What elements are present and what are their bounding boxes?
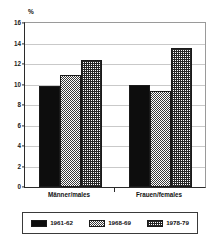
x-axis-label-2: Frauen/females bbox=[114, 192, 204, 198]
bar-frauen-1968-69 bbox=[150, 91, 171, 187]
y-tick-label: 14 bbox=[14, 40, 21, 46]
y-tick-label: 16 bbox=[14, 20, 21, 26]
bar-männer-1968-69 bbox=[60, 75, 81, 187]
y-tick-label: 4 bbox=[17, 143, 21, 149]
chart-legend: 1961-62 1968-69 1978-79 bbox=[22, 212, 198, 234]
legend-label-series1: 1961-62 bbox=[50, 220, 73, 226]
x-axis-label-1: Männer/males bbox=[24, 192, 114, 198]
plot-area: 0246810121416 bbox=[24, 22, 206, 188]
y-tick-mark bbox=[22, 84, 25, 85]
bar-frauen-1978-79 bbox=[171, 48, 192, 187]
y-tick-mark bbox=[22, 63, 25, 64]
y-tick-label: 6 bbox=[17, 122, 21, 128]
y-tick-label: 12 bbox=[14, 61, 21, 67]
legend-label-series2: 1968-69 bbox=[108, 220, 131, 226]
y-tick-label: 10 bbox=[14, 81, 21, 87]
bar-frauen-1961-62 bbox=[129, 85, 150, 188]
bar-männer-1978-79 bbox=[81, 60, 102, 187]
legend-item: 1978-79 bbox=[147, 220, 189, 227]
y-tick-mark bbox=[22, 186, 25, 187]
y-tick-mark bbox=[22, 43, 25, 44]
y-tick-mark bbox=[22, 22, 25, 23]
y-tick-mark bbox=[22, 166, 25, 167]
y-tick-mark bbox=[22, 145, 25, 146]
y-tick-label: 8 bbox=[17, 102, 21, 108]
y-tick-label: 0 bbox=[17, 184, 21, 190]
legend-swatch-series1 bbox=[31, 220, 47, 227]
bar-männer-1961-62 bbox=[39, 86, 60, 187]
legend-swatch-series3 bbox=[147, 220, 163, 227]
gridline bbox=[25, 44, 205, 45]
legend-swatch-series2 bbox=[89, 220, 105, 227]
y-tick-mark bbox=[22, 125, 25, 126]
legend-label-series3: 1978-79 bbox=[166, 220, 189, 226]
y-tick-mark bbox=[22, 104, 25, 105]
y-tick-label: 2 bbox=[17, 163, 21, 169]
x-tick-mark bbox=[114, 188, 115, 192]
bar-chart-figure: % 0246810121416 Männer/malesFrauen/femal… bbox=[0, 0, 218, 245]
y-axis-unit-label: % bbox=[28, 9, 34, 16]
legend-item: 1961-62 bbox=[31, 220, 73, 227]
legend-item: 1968-69 bbox=[89, 220, 131, 227]
